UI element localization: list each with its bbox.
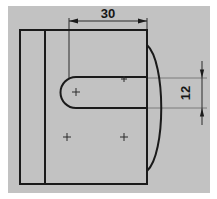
dimension-label-height: 12 [178, 86, 193, 100]
technical-drawing-canvas: 30 12 [0, 0, 217, 199]
dimension-label-width: 30 [101, 6, 115, 21]
drawing-svg: 30 12 [0, 0, 217, 199]
